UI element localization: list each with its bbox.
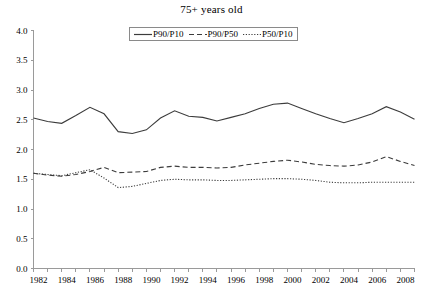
series-line-p90-p50 [34,157,415,177]
y-tick-label: 1.5 [16,174,28,184]
x-tick-label: 1990 [142,275,161,285]
chart-page: 75+ years old P90/P10 P90/P50 P50/P10 0.… [0,0,423,297]
y-tick-label: 2.5 [16,115,28,125]
x-axis: 1982198419861988199019921994199619982000… [30,269,415,285]
y-tick-label: 0.5 [16,234,28,244]
data-series-group [34,103,415,187]
y-axis: 0.00.51.01.52.02.53.03.54.0 [16,26,33,274]
x-tick-label: 1998 [255,275,274,285]
x-tick-label: 2004 [340,275,359,285]
x-tick-label: 2008 [396,275,415,285]
y-tick-label: 1.0 [16,204,28,214]
y-tick-label: 3.5 [16,55,28,65]
x-tick-label: 2006 [368,275,387,285]
x-tick-label: 1992 [171,275,189,285]
y-tick-label: 3.0 [16,85,28,95]
chart-plot-area: 0.00.51.01.52.02.53.03.54.0 198219841986… [0,0,423,297]
y-tick-label: 0.0 [16,264,28,274]
x-tick-label: 1988 [114,275,133,285]
y-tick-label: 4.0 [16,26,28,36]
x-tick-label: 1986 [86,275,105,285]
y-tick-label: 2.0 [16,145,28,155]
x-tick-label: 1994 [199,275,218,285]
x-tick-label: 1984 [58,275,77,285]
x-tick-label: 1996 [227,275,246,285]
x-tick-label: 2002 [312,275,330,285]
x-tick-label: 1982 [30,275,48,285]
series-line-p90-p10 [34,103,415,133]
x-tick-label: 2000 [284,275,303,285]
series-line-p50-p10 [34,170,415,188]
